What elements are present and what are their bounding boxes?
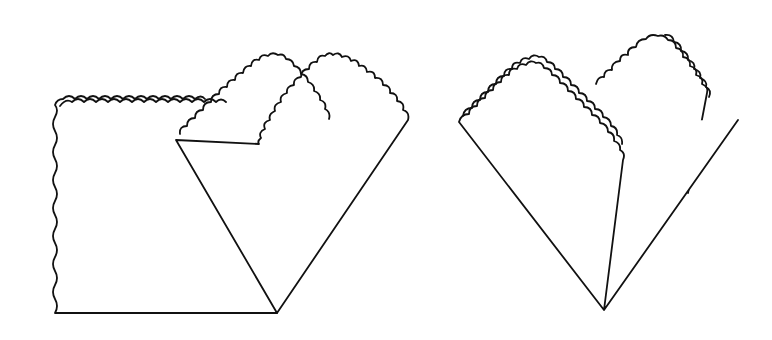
fold-step-2-figure [459,35,738,310]
napkin-square-back-scallop [60,99,226,106]
fold-step-1-figure [53,53,408,313]
napkin-fold-diagram [0,0,772,340]
folded-diamond-outline [176,53,408,313]
